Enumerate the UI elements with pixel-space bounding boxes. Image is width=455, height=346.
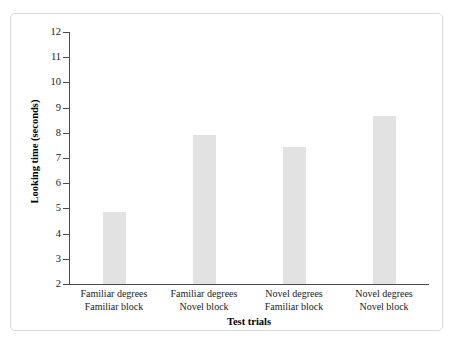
category-label-line1: Novel degrees [332, 288, 436, 301]
category-label-line1: Familiar degrees [62, 288, 166, 301]
category-label-line2: Novel block [152, 301, 256, 314]
x-axis-title: Test trials [69, 316, 429, 327]
figure-frame: 12111098765432 Looking time (seconds) Fa… [10, 13, 443, 331]
bar [373, 116, 396, 284]
bar [283, 147, 306, 284]
category-label-line2: Familiar block [242, 301, 346, 314]
bar [193, 135, 216, 284]
category-label-line1: Familiar degrees [152, 288, 256, 301]
y-axis-tick-label: 12 [15, 27, 61, 37]
bar [103, 212, 126, 284]
category-label-line2: Familiar block [62, 301, 166, 314]
bar-series [69, 14, 429, 332]
y-axis-tick-label: 11 [15, 52, 61, 62]
y-axis-tick-label: 2 [15, 279, 61, 289]
category-label-line1: Novel degrees [242, 288, 346, 301]
x-axis-category-label: Novel degreesNovel block [332, 288, 436, 313]
y-axis-title: Looking time (seconds) [29, 67, 40, 237]
x-axis-category-label: Familiar degreesFamiliar block [62, 288, 166, 313]
bar-chart-plot-area: 12111098765432 Looking time (seconds) Fa… [11, 14, 444, 332]
page-artifact-text [361, 0, 447, 9]
x-axis-category-labels: Familiar degreesFamiliar blockFamiliar d… [69, 288, 429, 318]
x-axis-category-label: Familiar degreesNovel block [152, 288, 256, 313]
y-axis-tick-label: 3 [15, 254, 61, 264]
category-label-line2: Novel block [332, 301, 436, 314]
x-axis-category-label: Novel degreesFamiliar block [242, 288, 346, 313]
